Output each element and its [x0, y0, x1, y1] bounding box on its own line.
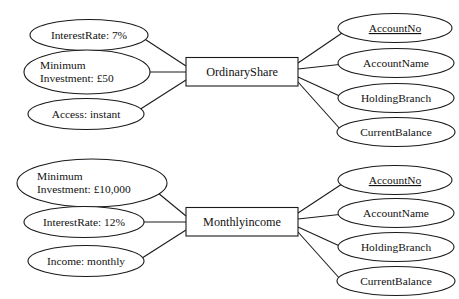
attribute-label-os-account-no: AccountNo — [369, 22, 422, 34]
attribute-label-mi-minimum-investment-line2: Investment: £10,000 — [37, 183, 131, 195]
attribute-node-mi-interest-rate[interactable]: InterestRate: 12% — [24, 207, 144, 238]
attribute-node-mi-current-balance[interactable]: CurrentBalance — [337, 267, 455, 296]
attribute-node-mi-income[interactable]: Income: monthly — [28, 246, 144, 277]
attribute-label-os-minimum-investment-line2: Investment: £50 — [40, 72, 114, 84]
attribute-node-mi-account-no[interactable]: AccountNo — [338, 166, 452, 195]
attribute-label-mi-account-no: AccountNo — [369, 174, 422, 186]
attribute-label-mi-interest-rate: InterestRate: 12% — [43, 216, 125, 228]
attribute-node-os-holding-branch[interactable]: HoldingBranch — [338, 84, 454, 113]
attribute-node-mi-account-name[interactable]: AccountName — [338, 199, 454, 228]
attribute-label-os-holding-branch: HoldingBranch — [361, 92, 432, 104]
attribute-label-os-access: Access: instant — [52, 108, 121, 120]
entity-node-monthly-income[interactable]: Monthlyincome — [186, 208, 298, 237]
attribute-label-os-interest-rate: InterestRate: 7% — [51, 29, 128, 41]
attribute-label-os-account-name: AccountName — [363, 57, 429, 69]
attribute-node-os-current-balance[interactable]: CurrentBalance — [337, 118, 455, 147]
entity-label-ordinary-share: OrdinaryShare — [206, 65, 278, 79]
attribute-node-os-interest-rate[interactable]: InterestRate: 7% — [30, 20, 148, 51]
attribute-node-mi-minimum-investment[interactable]: Minimum Investment: £10,000 — [17, 159, 167, 207]
er-diagram-canvas: OrdinaryShare InterestRate: 7% Minimum I… — [0, 0, 459, 299]
attribute-label-mi-current-balance: CurrentBalance — [360, 275, 431, 287]
attribute-node-os-account-no[interactable]: AccountNo — [338, 14, 452, 43]
attribute-label-mi-holding-branch: HoldingBranch — [361, 241, 432, 253]
entity-label-monthly-income: Monthlyincome — [203, 215, 281, 229]
attribute-label-mi-account-name: AccountName — [363, 207, 429, 219]
attribute-label-mi-income: Income: monthly — [47, 255, 125, 267]
attribute-label-os-current-balance: CurrentBalance — [360, 126, 431, 138]
attribute-node-os-minimum-investment[interactable]: Minimum Investment: £50 — [24, 50, 150, 94]
entity-node-ordinary-share[interactable]: OrdinaryShare — [186, 58, 298, 87]
attribute-label-mi-minimum-investment-line1: Minimum — [37, 170, 83, 182]
attribute-node-os-account-name[interactable]: AccountName — [338, 49, 454, 78]
attribute-node-mi-holding-branch[interactable]: HoldingBranch — [338, 233, 454, 262]
attribute-node-os-access[interactable]: Access: instant — [28, 99, 144, 130]
attribute-label-os-minimum-investment-line1: Minimum — [40, 59, 86, 71]
